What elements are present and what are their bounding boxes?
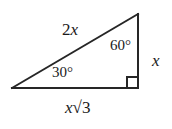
vertical-leg-variable: x	[152, 51, 160, 70]
right-angle-marker-icon	[127, 77, 138, 88]
angle-30-label: 30°	[52, 65, 73, 80]
base-leg-label: x√3	[65, 99, 90, 116]
vertical-leg-label: x	[152, 52, 160, 69]
base-leg-variable: x	[65, 98, 73, 117]
hypotenuse-label: 2x	[62, 21, 78, 38]
hypotenuse-coefficient: 2	[62, 20, 71, 39]
angle-60-label: 60°	[110, 38, 131, 53]
hypotenuse-variable: x	[71, 20, 79, 39]
figure-canvas: 2x x x√3 60° 30°	[0, 0, 172, 129]
base-leg-radical: √3	[73, 98, 91, 117]
